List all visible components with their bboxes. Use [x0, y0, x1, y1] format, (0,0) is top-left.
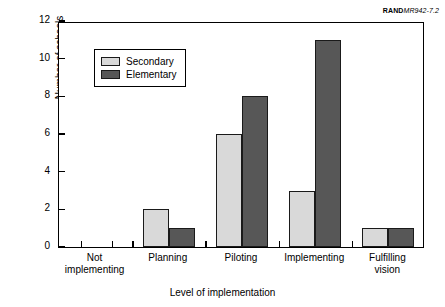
y-tick-mark [59, 58, 65, 60]
bar-elementary-planning [169, 228, 195, 247]
y-tick-mark [59, 96, 65, 98]
legend-item-elementary: Elementary [101, 68, 177, 81]
bar-elementary-fulfilling-vision [388, 228, 414, 247]
x-tick-mark [279, 241, 281, 247]
y-tick-mark [59, 133, 65, 135]
legend-label-elementary: Elementary [126, 69, 177, 80]
x-category-label-line2: vision [331, 264, 444, 276]
y-tick-label: 4 [44, 165, 50, 176]
legend-label-secondary: Secondary [126, 56, 174, 67]
y-tick-mark [59, 246, 65, 248]
y-tick-label: 12 [39, 14, 50, 25]
y-tick-label: 6 [44, 127, 50, 138]
x-axis-title: Level of implementation [0, 287, 445, 298]
bar-elementary-implementing [315, 40, 341, 247]
chart-legend: SecondaryElementary [94, 49, 186, 87]
bar-secondary-planning [143, 209, 169, 247]
x-category-label-line2: implementing [38, 264, 151, 276]
legend-swatch-secondary [101, 57, 120, 66]
plot-area: 024681012 SecondaryElementary [58, 22, 424, 248]
x-category-label-line1: Not [87, 252, 103, 263]
x-tick-mark [81, 241, 83, 247]
figure-id-label: MR942-7.2 [403, 7, 439, 14]
x-tick-mark [205, 241, 207, 247]
y-tick-mark [59, 20, 65, 22]
source-credit: RANDMR942-7.2 [383, 7, 439, 14]
x-category-label-line1: Piloting [225, 252, 258, 263]
x-category-label-line1: Fulfilling [369, 252, 406, 263]
legend-swatch-elementary [101, 70, 120, 79]
bar-secondary-fulfilling-vision [362, 228, 388, 247]
y-tick-label: 8 [44, 89, 50, 100]
bar-elementary-piloting [242, 96, 268, 247]
x-category-label: Fulfillingvision [331, 252, 444, 275]
y-tick-label: 10 [39, 52, 50, 63]
x-tick-mark [352, 241, 354, 247]
y-tick-label: 0 [44, 240, 50, 251]
y-tick-label: 2 [44, 202, 50, 213]
rand-brand-label: RAND [383, 7, 404, 14]
x-tick-mark [132, 241, 134, 247]
legend-item-secondary: Secondary [101, 55, 177, 68]
bar-secondary-piloting [216, 134, 242, 247]
x-category-label-line1: Planning [148, 252, 187, 263]
bar-secondary-implementing [289, 191, 315, 248]
x-tick-mark [112, 241, 114, 247]
y-tick-mark [59, 209, 65, 211]
y-tick-mark [59, 171, 65, 173]
